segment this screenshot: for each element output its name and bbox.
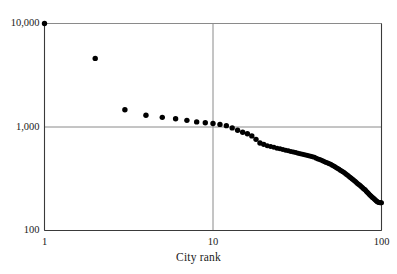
- scatter-plot-canvas: [0, 0, 397, 274]
- data-point: [210, 121, 215, 126]
- chart-figure: 1001,00010,000 110100 City rank: [0, 0, 397, 274]
- data-point: [253, 137, 258, 142]
- data-point: [240, 130, 245, 135]
- data-point: [224, 123, 229, 128]
- data-point: [230, 125, 235, 130]
- data-point: [249, 133, 254, 138]
- gridline-group: [45, 24, 382, 231]
- x-tick-label: 100: [362, 237, 397, 248]
- x-tick-label: 1: [25, 237, 65, 248]
- data-point: [217, 122, 222, 127]
- data-point: [143, 113, 148, 118]
- data-point: [235, 128, 240, 133]
- x-tick-label: 10: [193, 237, 233, 248]
- data-point: [42, 21, 47, 26]
- y-tick-label: 10,000: [11, 18, 40, 29]
- data-point: [173, 116, 178, 121]
- data-point: [184, 118, 189, 123]
- y-tick-label: 1,000: [16, 122, 40, 133]
- data-point: [379, 200, 384, 205]
- y-tick-label: 100: [24, 225, 40, 236]
- data-point: [194, 119, 199, 124]
- data-point: [203, 120, 208, 125]
- x-axis-title: City rank: [0, 251, 397, 263]
- data-point: [160, 115, 165, 120]
- data-point: [93, 56, 98, 61]
- data-point: [122, 107, 127, 112]
